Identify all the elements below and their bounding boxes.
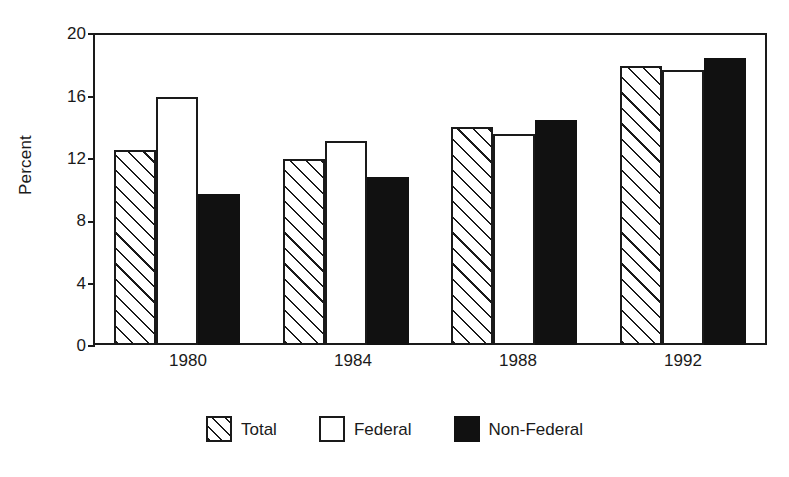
- y-tick-label-12: 12: [52, 150, 86, 167]
- hatched-swatch-icon: [206, 416, 232, 442]
- bar-1980-total: [114, 150, 156, 345]
- x-axis-tick-labels: 1980 1984 1988 1992: [93, 352, 767, 380]
- bar-1992-federal: [662, 70, 704, 345]
- bar-1992-total: [620, 66, 662, 345]
- x-tick-label-1992: 1992: [623, 352, 743, 369]
- bar-1988-non-federal: [535, 120, 577, 345]
- y-tick-label-16: 16: [52, 88, 86, 105]
- x-tick-label-1984: 1984: [293, 352, 413, 369]
- legend-item-federal: Federal: [319, 416, 412, 442]
- legend-label-total: Total: [241, 421, 277, 438]
- bar-1988-total: [451, 127, 493, 345]
- bar-1992-non-federal: [704, 58, 746, 345]
- y-tick-label-8: 8: [52, 212, 86, 229]
- y-tick-mark-0: [88, 345, 95, 347]
- x-tick-label-1988: 1988: [458, 352, 578, 369]
- y-tick-label-0: 0: [52, 337, 86, 354]
- bar-1984-federal: [325, 141, 367, 345]
- y-tick-label-4: 4: [52, 275, 86, 292]
- chart-legend: Total Federal Non-Federal: [0, 416, 789, 442]
- bar-1984-non-federal: [367, 177, 409, 345]
- legend-item-non-federal: Non-Federal: [454, 416, 584, 442]
- filled-swatch-icon: [454, 416, 480, 442]
- bar-1988-federal: [493, 134, 535, 345]
- legend-item-total: Total: [206, 416, 277, 442]
- x-tick-label-1980: 1980: [128, 352, 248, 369]
- legend-label-federal: Federal: [354, 421, 412, 438]
- bar-chart: Percent 20 16 12 8 4 0 1980 1984 1988 19…: [0, 0, 789, 477]
- y-axis-title: Percent: [16, 95, 36, 235]
- outline-swatch-icon: [319, 416, 345, 442]
- bar-series-layer: [93, 33, 767, 345]
- bar-1980-non-federal: [198, 194, 240, 345]
- bar-1980-federal: [156, 97, 198, 345]
- y-tick-label-20: 20: [52, 25, 86, 42]
- y-axis-tick-labels: 20 16 12 8 4 0: [50, 0, 86, 477]
- bar-1984-total: [283, 159, 325, 345]
- legend-label-non-federal: Non-Federal: [489, 421, 584, 438]
